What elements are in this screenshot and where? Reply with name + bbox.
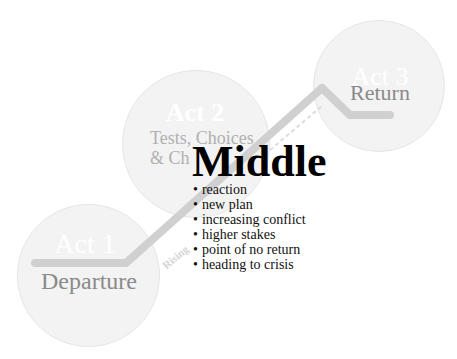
bullet-item: heading to crisis [193,257,306,272]
act-1-subtitle: Departure [20,268,158,295]
bullet-item: reaction [193,182,306,197]
act-2-subtitle-2: & Ch [150,148,190,169]
middle-bullet-list: reaction new plan increasing conflict hi… [193,182,306,272]
act-2-title: Act 2 [145,98,245,128]
bullet-item: increasing conflict [193,212,306,227]
act-3-subtitle: Return [330,80,430,106]
act-1-title: Act 1 [30,228,140,260]
bullet-item: new plan [193,197,306,212]
bullet-item: point of no return [193,242,306,257]
bullet-item: higher stakes [193,227,306,242]
middle-title: Middle [192,140,326,184]
